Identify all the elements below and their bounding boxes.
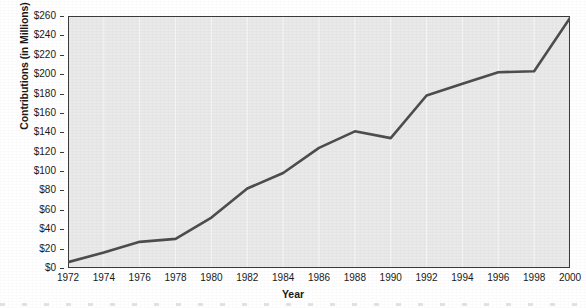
x-tick-label: 1976 [120, 272, 160, 283]
x-tick-label: 1986 [299, 272, 339, 283]
x-tick-label: 1994 [442, 272, 482, 283]
x-tick-label: 1996 [478, 272, 518, 283]
scan-edge-artifact [0, 303, 586, 306]
x-tick-label: 1984 [263, 272, 303, 283]
x-tick-label: 1998 [514, 272, 554, 283]
x-tick-label: 1978 [156, 272, 196, 283]
x-axis-tick-labels: 1972197419761978198019821984198619881990… [0, 0, 586, 308]
x-tick-label: 1980 [191, 272, 231, 283]
x-tick-label: 1992 [407, 272, 447, 283]
x-tick-label: 1988 [335, 272, 375, 283]
x-tick-label: 2000 [550, 272, 586, 283]
x-tick-label: 1974 [84, 272, 124, 283]
chart-figure: Contributions (in Millions) $0$20$40$60$… [0, 0, 586, 308]
x-tick-label: 1982 [227, 272, 267, 283]
x-tick-label: 1972 [48, 272, 88, 283]
x-tick-label: 1990 [371, 272, 411, 283]
x-axis-title: Year [0, 288, 586, 300]
